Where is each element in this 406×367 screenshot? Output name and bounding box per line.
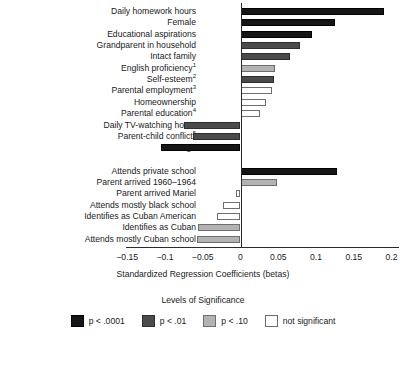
legend-swatch: [142, 315, 155, 327]
legend-label: p < .10: [221, 316, 248, 326]
bar: [198, 224, 240, 231]
bar-label: Homeownership: [134, 97, 196, 108]
legend-items: p < .0001p < .01p < .10not significant: [0, 315, 406, 327]
bar: [241, 53, 290, 60]
bar-label: Daily TV-watching hours: [103, 120, 196, 131]
x-axis-line: [126, 247, 399, 248]
bar-row: Parent arrived Mariel: [0, 188, 406, 199]
bar: [184, 122, 241, 129]
bar-row: Identifies as Cuban: [0, 222, 406, 233]
bar-label: Intact family: [150, 51, 196, 62]
bar: [241, 65, 276, 72]
bar-label: Attends private school: [111, 166, 196, 177]
bar-row: Female: [0, 17, 406, 28]
bar-label: Parent-child conflict5: [118, 131, 196, 142]
bar-label: Parental employment3: [111, 85, 196, 96]
bar-row: Grandparent in household: [0, 40, 406, 51]
zero-axis-line: [241, 3, 242, 247]
legend-label: p < .01: [160, 316, 187, 326]
bar-row: Parent arrived 1960–1964: [0, 177, 406, 188]
bar-row: Intact family: [0, 51, 406, 62]
bar-row: Parent-child conflict5: [0, 131, 406, 142]
legend-label: p < .0001: [89, 316, 125, 326]
legend-item: p < .0001: [71, 315, 125, 327]
bar-row: Attends mostly black school: [0, 200, 406, 211]
bar: [241, 87, 273, 94]
bar-label: English proficiency1: [121, 63, 196, 74]
bar-label: Parent arrived Mariel: [116, 188, 196, 199]
legend-swatch: [265, 315, 278, 327]
bar-label: Attends mostly black school: [90, 200, 196, 211]
x-axis-title: Standardized Regression Coefficients (be…: [0, 269, 406, 279]
bar-row: Educational aspirations: [0, 29, 406, 40]
label-footnote-marker: 3: [193, 85, 196, 91]
bar-label: Identifies as Cuban American: [84, 211, 196, 222]
legend-item: p < .10: [203, 315, 248, 327]
x-axis-tick-label: 0.2: [369, 252, 406, 262]
bar-row: Daily homework hours: [0, 6, 406, 17]
legend-item: not significant: [265, 315, 336, 327]
bar-row: Homeownership: [0, 97, 406, 108]
bar-row: Age: [0, 142, 406, 153]
chart-legend: Levels of Significance p < .0001p < .01p…: [0, 295, 406, 327]
legend-swatch: [203, 315, 216, 327]
bar-label: Identifies as Cuban: [122, 222, 196, 233]
bar-label: Self-esteem2: [147, 74, 196, 85]
plot-area: Daily homework hoursFemaleEducational as…: [0, 0, 406, 270]
bar-row: Identifies as Cuban American: [0, 211, 406, 222]
bar-label: Daily homework hours: [111, 6, 196, 17]
bar: [161, 144, 240, 151]
chart-root: Daily homework hoursFemaleEducational as…: [0, 0, 406, 367]
label-footnote-marker: 1: [193, 62, 196, 68]
bar: [241, 99, 267, 106]
legend-item: p < .01: [142, 315, 187, 327]
bar: [241, 31, 313, 38]
bar-label: Educational aspirations: [107, 29, 196, 40]
legend-title: Levels of Significance: [0, 295, 406, 305]
bar-row: Parental education4: [0, 108, 406, 119]
bar-label: Grandparent in household: [97, 40, 196, 51]
bar-row: Daily TV-watching hours: [0, 120, 406, 131]
bar: [241, 110, 261, 117]
bar: [193, 133, 241, 140]
bar: [241, 19, 335, 26]
bar-row: English proficiency1: [0, 63, 406, 74]
bar-row: Self-esteem2: [0, 74, 406, 85]
bar: [241, 76, 275, 83]
bar-label: Female: [167, 17, 196, 28]
bar-label: Attends mostly Cuban school: [85, 234, 196, 245]
bar: [217, 213, 240, 220]
bar: [241, 8, 385, 15]
bar: [241, 168, 338, 175]
bar-label: Parental education4: [121, 108, 196, 119]
bar-label: Parent arrived 1960–1964: [97, 177, 196, 188]
bar-row: Attends private school: [0, 166, 406, 177]
bar-row: Parental employment3: [0, 85, 406, 96]
label-footnote-marker: 2: [193, 73, 196, 79]
bar: [223, 202, 240, 209]
bar: [197, 236, 241, 243]
bar: [241, 42, 301, 49]
bar-row: Attends mostly Cuban school: [0, 234, 406, 245]
bar: [241, 179, 277, 186]
legend-label: not significant: [283, 316, 336, 326]
label-footnote-marker: 4: [193, 107, 196, 113]
legend-swatch: [71, 315, 84, 327]
